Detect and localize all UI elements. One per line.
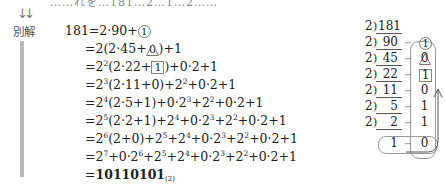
boxed-remainder: 1 [419, 69, 432, 82]
circled-remainder: 1 [138, 25, 151, 38]
equation-line-7: =26(2+0)+25+24+0·23+22+0·2+1 [85, 132, 298, 146]
boxed-remainder: 1 [151, 61, 164, 74]
quotient: 45 [378, 51, 398, 66]
equation-line-5: =24(2·5+1)+0·23+22+0·2+1 [85, 96, 263, 110]
rhs-part: =2 [85, 113, 103, 128]
quotient: 22 [378, 67, 398, 82]
triangle-marked-remainder: 0 [419, 51, 430, 66]
quotient: 90 [378, 35, 398, 50]
division-bracket: ) [373, 19, 377, 34]
division-underline [376, 97, 402, 98]
equation-line-4: =23(2·11+0)+22+0·2+1 [85, 78, 236, 92]
division-underline [376, 113, 402, 114]
rhs-part: =2 [85, 131, 103, 146]
rhs-part: =2 [85, 149, 103, 164]
quotient: 1 [378, 136, 398, 151]
divisor: 2 [365, 35, 373, 50]
equation-line-9-result: =10110101(2) [85, 168, 175, 186]
division-row: 2) 22 ··· 1 [358, 67, 438, 82]
equation-line-6: =25(2·2+1)+24+0·23+22+0·2+1 [85, 114, 287, 128]
rhs-tail: )+1 [159, 41, 182, 56]
division-row: 2) 90 ··· 1 [358, 35, 438, 50]
cut-off-text-line: ……れを…181…2…1…2…… [50, 0, 218, 9]
division-underline [376, 129, 402, 130]
vertical-bar [20, 41, 24, 177]
base-subscript: (2) [165, 175, 175, 183]
equation-line-3: =22(2·22+1)+0·2+1 [85, 60, 218, 74]
rhs-part: =2 [85, 95, 103, 110]
rhs-part: =2 [85, 77, 103, 92]
division-row: 2) 45 ··· 0 [358, 51, 438, 66]
division-underline [376, 33, 402, 34]
divisor: 2 [365, 67, 373, 82]
read-upward-arrow-icon [400, 88, 445, 158]
division-bracket: ) [373, 67, 377, 82]
division-bracket: ) [373, 51, 377, 66]
binary-result: 10110101 [95, 167, 165, 182]
division-bracket: ) [373, 115, 377, 130]
division-underline [376, 65, 402, 66]
divisor: 2 [365, 99, 373, 114]
division-bracket: ) [373, 83, 377, 98]
lhs-value: 181 [65, 23, 89, 38]
divisor: 2 [365, 115, 373, 130]
quotient: 2 [378, 115, 398, 130]
quotient: 5 [378, 99, 398, 114]
rhs-part: =2 [85, 59, 103, 74]
down-arrow-icon: ↓↓ [17, 6, 31, 21]
equals-sign: = [85, 167, 95, 182]
triangle-marked-remainder: 0 [147, 43, 159, 57]
circled-remainder: 1 [419, 37, 432, 50]
equation-line-8: =27+0·26+25+24+0·23+22+0·2+1 [85, 150, 297, 164]
division-bracket: ) [373, 99, 377, 114]
equation-line-2: =2(2·45+0)+1 [85, 42, 182, 57]
divisor: 2 [365, 51, 373, 66]
dots: ··· [404, 67, 411, 82]
divisor: 2 [365, 19, 373, 34]
division-row: 2) 181 [358, 19, 438, 34]
division-bracket: ) [373, 35, 377, 50]
remainder-value: 0 [421, 51, 429, 65]
dots: ··· [404, 35, 411, 50]
quotient: 181 [378, 19, 398, 34]
alternative-solution-label: 別解 [13, 23, 35, 39]
equation-line-1: 181=2·90+1 [65, 24, 151, 38]
quotient: 11 [378, 83, 398, 98]
division-underline [376, 81, 402, 82]
rhs-part: =2(2·45+ [85, 41, 147, 56]
dots: ··· [404, 51, 411, 66]
divisor: 2 [365, 83, 373, 98]
rhs-part: =2·90+ [89, 23, 138, 38]
division-underline [376, 49, 402, 50]
